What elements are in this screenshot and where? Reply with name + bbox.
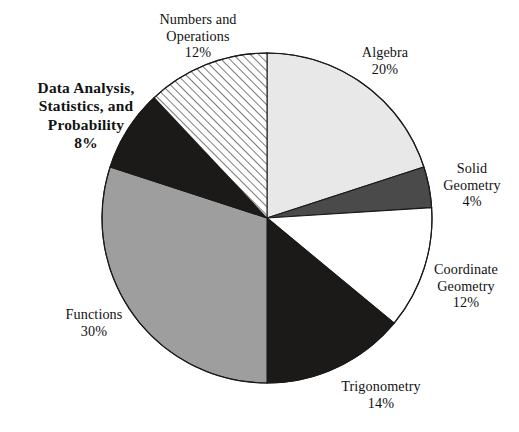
pie-chart: Numbers and Operations 12% Data Analysis… [0, 0, 519, 432]
pie-label-percent: 8% [14, 134, 158, 152]
pie-label-name-line-1: Algebra [333, 44, 437, 61]
pie-label-percent: 12% [131, 44, 265, 61]
pie-label-percent: 12% [418, 294, 514, 311]
pie-label-percent: 30% [43, 323, 145, 340]
pie-label-name-line-2: Statistics, and [14, 97, 158, 115]
pie-label-name-line-3: Probability [14, 116, 158, 134]
pie-label-name-line-1: Trigonometry [325, 378, 437, 395]
pie-label-data-analysis: Data Analysis, Statistics, and Probabili… [14, 79, 158, 153]
pie-label-name-line-1: Solid [432, 160, 512, 177]
pie-label-coordinate-geometry: Coordinate Geometry 12% [418, 261, 514, 311]
pie-label-percent: 4% [432, 193, 512, 210]
pie-label-name-line-2: Geometry [418, 278, 514, 295]
pie-label-trigonometry: Trigonometry 14% [325, 378, 437, 411]
pie-label-name-line-1: Functions [43, 306, 145, 323]
pie-label-percent: 14% [325, 395, 437, 412]
pie-label-name-line-2: Geometry [432, 177, 512, 194]
pie-label-name-line-2: Operations [131, 28, 265, 45]
pie-label-name-line-1: Coordinate [418, 261, 514, 278]
pie-label-numbers-and-operations: Numbers and Operations 12% [131, 11, 265, 61]
pie-chart-canvas [0, 0, 519, 432]
pie-label-name-line-1: Numbers and [131, 11, 265, 28]
pie-label-solid-geometry: Solid Geometry 4% [432, 160, 512, 210]
pie-label-algebra: Algebra 20% [333, 44, 437, 77]
pie-label-name-line-1: Data Analysis, [14, 79, 158, 97]
pie-label-percent: 20% [333, 61, 437, 78]
pie-label-functions: Functions 30% [43, 306, 145, 339]
